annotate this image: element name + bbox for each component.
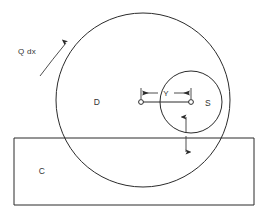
large-circle-label: D [94,97,100,107]
technical-diagram: Q dx D S C Y [0,0,262,220]
flux-label: Q dx [18,47,36,56]
rectangle-label: C [39,166,45,176]
rectangle-body-c [14,138,254,205]
center-marker-left-icon [139,100,144,105]
small-circle-label: S [205,98,211,108]
center-marker-right-icon [189,100,194,105]
dimension-label: Y [163,89,169,98]
diagram-canvas: Q dx D S C Y [0,0,262,220]
flux-leader-arrow [40,43,66,76]
